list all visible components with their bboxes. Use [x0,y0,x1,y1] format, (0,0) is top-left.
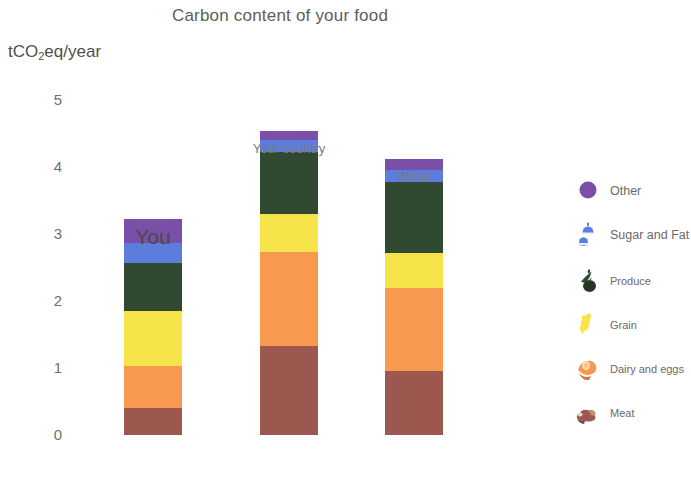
produce-icon [575,266,605,296]
grain-icon [575,310,605,340]
y-axis-tick-5: 5 [22,92,62,107]
y-axis-tick-2: 2 [22,293,62,308]
bar-segment-other[interactable] [260,131,318,140]
meat-icon [575,398,605,428]
legend-label: Dairy and eggs [610,364,684,375]
y-axis-tick-3: 3 [22,226,62,241]
bar-group-your-country[interactable]: Your country [260,131,318,435]
carbon-content-chart: Carbon content of your food tCO2eq/year … [0,0,691,479]
y-axis-tick-1: 1 [22,360,62,375]
bar-group-you[interactable]: You [124,219,182,435]
other-circle-icon [575,176,605,206]
x-axis-label-world: World [334,169,494,461]
legend-item-other[interactable]: Other [575,178,691,204]
legend: OtherSugar and FatProduceGrainDairy and … [575,178,691,444]
legend-label: Sugar and Fat [610,229,689,242]
legend-item-produce[interactable]: Produce [575,268,691,294]
legend-item-grain[interactable]: Grain [575,312,691,338]
legend-label: Meat [610,408,634,419]
y-axis-tick-0: 0 [22,427,62,442]
legend-label: Produce [610,276,651,287]
sugar-and-fat-icon [575,220,605,250]
legend-item-dairy-and-eggs[interactable]: Dairy and eggs [575,356,691,382]
bar-group-world[interactable]: World [385,159,443,435]
y-axis-tick-4: 4 [22,159,62,174]
legend-item-meat[interactable]: Meat [575,400,691,426]
dairy-and-eggs-icon [575,354,605,384]
legend-label: Other [610,185,641,198]
legend-item-sugar-and-fat[interactable]: Sugar and Fat [575,222,691,248]
legend-label: Grain [610,320,637,331]
plot-area: 543210YouYour countryWorld [0,0,560,479]
